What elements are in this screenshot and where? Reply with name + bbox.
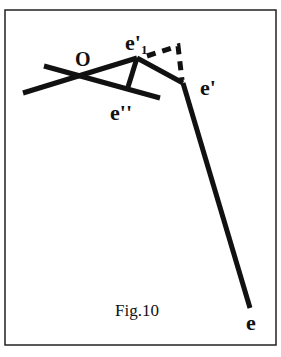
label-e1-prime: e'1 — [125, 30, 147, 57]
line-e1-to-eprime — [137, 58, 183, 83]
label-e-prime: e' — [200, 75, 216, 100]
line-eprime-to-e — [183, 83, 250, 308]
figure-caption: Fig.10 — [115, 301, 159, 320]
label-e-double-prime: e'' — [110, 100, 132, 125]
label-origin: O — [75, 48, 91, 70]
vector-diagram: O e'1 e' e'' e Fig.10 — [0, 0, 281, 357]
label-e: e — [246, 310, 256, 335]
